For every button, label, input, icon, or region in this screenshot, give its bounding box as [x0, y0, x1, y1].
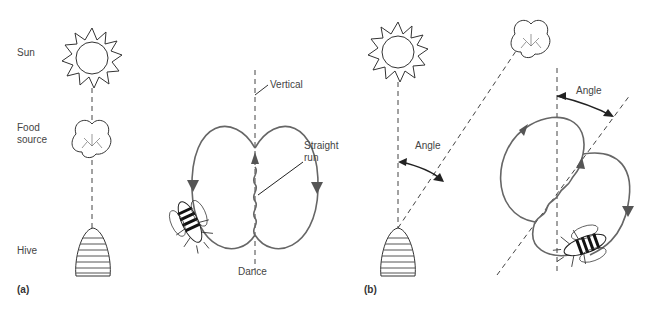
flower-icon-a	[72, 120, 111, 157]
food-direction-line	[398, 45, 520, 228]
angle-label-right: Angle	[576, 85, 602, 97]
food-source-label-line2: source	[17, 134, 47, 146]
bee-icon-b	[549, 221, 612, 273]
straight-run-label-line1: Straight	[304, 140, 338, 152]
panel-a-tag: (a)	[17, 284, 29, 295]
panel-b-tag: (b)	[364, 284, 377, 295]
angle-label-left: Angle	[415, 140, 441, 152]
hive-icon-a	[76, 228, 111, 276]
sun-icon-a	[62, 28, 122, 88]
bee-icon-a	[164, 194, 219, 258]
vertical-label: Vertical	[270, 79, 303, 91]
waggle-run	[254, 167, 257, 235]
sun-label: Sun	[17, 47, 35, 59]
dance-label: Dance	[238, 266, 267, 278]
sun-icon-b	[368, 22, 428, 82]
hive-label: Hive	[17, 245, 37, 257]
food-source-label-line1: Food	[17, 122, 40, 134]
flower-icon-b	[511, 20, 550, 57]
waggle-dance-diagram	[0, 0, 648, 309]
hive-icon-b	[381, 228, 416, 276]
straight-run-label-line2: run	[304, 152, 318, 164]
